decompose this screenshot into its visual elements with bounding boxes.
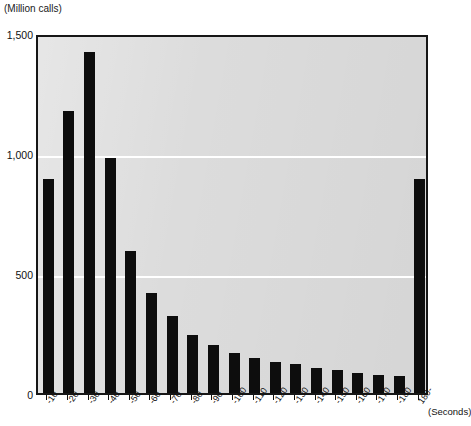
x-axis-tick-labels: -10-20-30-40-50-60-70-80-90-100-110-120-… bbox=[36, 398, 428, 426]
bar-series bbox=[38, 37, 426, 393]
plot-area bbox=[36, 35, 428, 395]
bar bbox=[84, 52, 95, 393]
y-axis-tick-label: 500 bbox=[0, 269, 33, 281]
y-axis-tick-label: 1,500 bbox=[0, 29, 33, 41]
x-axis-unit-label: (Seconds) bbox=[428, 406, 471, 417]
bar bbox=[208, 345, 219, 393]
bar bbox=[167, 316, 178, 393]
bar bbox=[63, 111, 74, 393]
y-axis-tick-labels: 05001,0001,500 bbox=[0, 0, 33, 426]
bar bbox=[414, 179, 425, 393]
bar bbox=[146, 293, 157, 393]
bar bbox=[125, 251, 136, 393]
y-axis-tick-label: 0 bbox=[0, 389, 33, 401]
bar bbox=[43, 179, 54, 393]
bar bbox=[187, 335, 198, 393]
y-axis-tick-label: 1,000 bbox=[0, 149, 33, 161]
bar bbox=[105, 158, 116, 393]
